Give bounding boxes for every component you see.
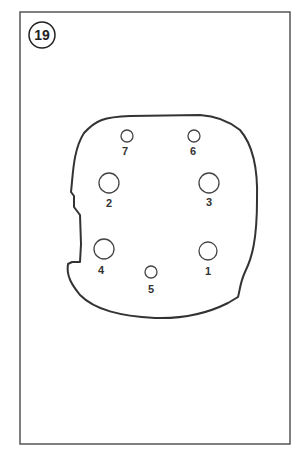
bolt-holes: 1234567 bbox=[94, 130, 219, 295]
hole-label: 4 bbox=[98, 264, 105, 276]
bolt-hole-7: 7 bbox=[121, 130, 133, 157]
bolt-hole-4: 4 bbox=[94, 239, 114, 276]
bolt-hole-1: 1 bbox=[199, 242, 217, 277]
bolt-hole-3: 3 bbox=[199, 173, 219, 208]
svg-text:19: 19 bbox=[34, 27, 50, 43]
hole-label: 7 bbox=[122, 145, 128, 157]
hole-circle bbox=[121, 130, 133, 142]
hole-label: 6 bbox=[190, 145, 196, 157]
hole-circle bbox=[94, 239, 114, 259]
figure-frame bbox=[20, 12, 290, 444]
hole-circle bbox=[99, 173, 119, 193]
hole-label: 3 bbox=[206, 196, 212, 208]
hole-label: 5 bbox=[148, 283, 154, 295]
hole-circle bbox=[145, 266, 157, 278]
bolt-hole-5: 5 bbox=[145, 266, 157, 295]
hole-circle bbox=[199, 242, 217, 260]
gasket-diagram: 19 1234567 bbox=[0, 0, 303, 454]
hole-label: 2 bbox=[106, 197, 112, 209]
bolt-hole-2: 2 bbox=[99, 173, 119, 209]
figure-number-badge: 19 bbox=[29, 22, 55, 48]
hole-circle bbox=[188, 130, 200, 142]
bolt-hole-6: 6 bbox=[188, 130, 200, 157]
hole-circle bbox=[199, 173, 219, 193]
cylinder-head-outline bbox=[68, 115, 258, 318]
hole-label: 1 bbox=[205, 265, 211, 277]
